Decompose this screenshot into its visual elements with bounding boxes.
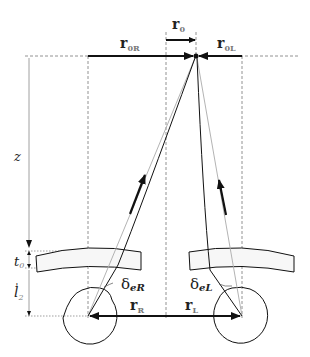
r0R-label: r0R [120,35,140,53]
l2-label: l2' [14,281,24,302]
deltaR-label: δeR [121,275,145,293]
deltaL-label: δeL [190,275,212,293]
r0-label: r0 [172,16,185,34]
left-direction-arrow [219,180,226,215]
r0L-label: r0L [217,35,236,53]
z-arrow-head [26,240,32,248]
l2-arrow [27,311,31,316]
rL-label: rL [185,297,198,315]
target-point [194,54,199,59]
deltaR-arc [104,283,113,287]
t0-arrow-top [27,251,31,255]
t0-label: t0 [14,254,24,270]
vergence-diagram: r0 r0R r0L z t0 l2' δeR δeL rR rL [0,0,310,357]
right-lens [36,248,141,272]
z-label: z [13,149,21,164]
left-lens [189,248,294,272]
right-direction-arrow [130,175,145,214]
rR-label: rR [130,297,144,315]
t0-arrow-bottom [27,264,31,268]
